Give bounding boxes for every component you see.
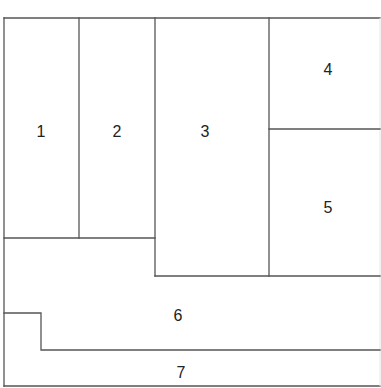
divider-6-7: [4, 313, 380, 350]
region-label-4: 4: [324, 61, 333, 78]
region-label-6: 6: [174, 307, 183, 324]
region-label-2: 2: [113, 123, 122, 140]
region-label-7: 7: [177, 364, 186, 381]
region-label-5: 5: [324, 199, 333, 216]
region-label-3: 3: [201, 123, 210, 140]
region-partition-diagram: 1 2 3 4 5 6 7: [0, 0, 381, 388]
region-label-1: 1: [37, 123, 46, 140]
